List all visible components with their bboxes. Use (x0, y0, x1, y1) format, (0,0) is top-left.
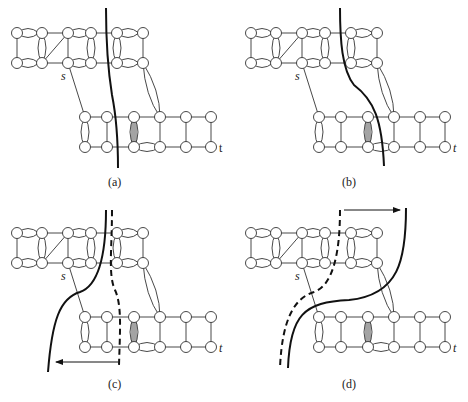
sink-label: t (453, 141, 457, 155)
source-label: s (295, 269, 300, 283)
panel-caption: (a) (108, 175, 121, 189)
panel-caption: (b) (342, 175, 356, 189)
source-label: s (61, 69, 66, 83)
source-label: s (61, 269, 66, 283)
panel-b: s t (b) (246, 8, 458, 189)
panel-caption: (d) (342, 377, 356, 391)
panel-caption: (c) (108, 377, 121, 391)
source-label: s (295, 69, 300, 83)
panel-d: s t (d) (246, 208, 458, 391)
panel-c: s t (c) (12, 210, 224, 391)
sink-label: t (219, 141, 223, 155)
sink-label: t (453, 341, 457, 355)
figure-canvas: s t (a) s t (b) s t (c) s t (d) (0, 0, 468, 402)
sink-label: t (219, 341, 223, 355)
panel-a: s t (a) (12, 8, 224, 189)
